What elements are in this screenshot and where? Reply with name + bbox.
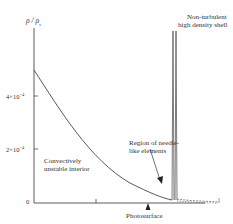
shell-line-2: high density shell xyxy=(178,21,227,29)
annotation-interior: Convectively unstable interior xyxy=(44,157,90,173)
tick-4-base: 4×10 xyxy=(6,93,19,100)
y-tick-label-0: 0 xyxy=(26,198,29,205)
density-curve xyxy=(34,70,172,200)
tick-2-exp: −4 xyxy=(19,145,24,150)
y-axis-label: ρ / ρs xyxy=(26,17,41,29)
y-axis-label-text: ρ / ρ xyxy=(26,16,39,25)
annotation-needle: Region of needle- like elements xyxy=(129,139,179,155)
annotation-photosurface: Photosurface xyxy=(126,212,163,220)
y-tick-label-2e-4: 2×10−4 xyxy=(6,145,24,153)
shell-line-1: Non-turbulent xyxy=(183,13,227,21)
needle-line-1: Region of needle- xyxy=(129,139,179,147)
interior-line-1: Convectively xyxy=(44,157,90,165)
tick-2-base: 2×10 xyxy=(6,146,19,153)
y-axis-label-sub: s xyxy=(39,22,41,27)
chart-canvas xyxy=(0,0,233,224)
tick-4-exp: −4 xyxy=(19,92,24,97)
interior-line-2: unstable interior xyxy=(44,165,90,173)
y-tick-label-4e-4: 4×10−4 xyxy=(6,92,24,100)
needle-arrow-head xyxy=(157,176,163,184)
photosurface-arrow-icon xyxy=(146,203,151,210)
annotation-shell: Non-turbulent high density shell xyxy=(183,13,227,29)
needle-line-2: like elements xyxy=(129,147,179,155)
shell-spike xyxy=(172,31,177,200)
